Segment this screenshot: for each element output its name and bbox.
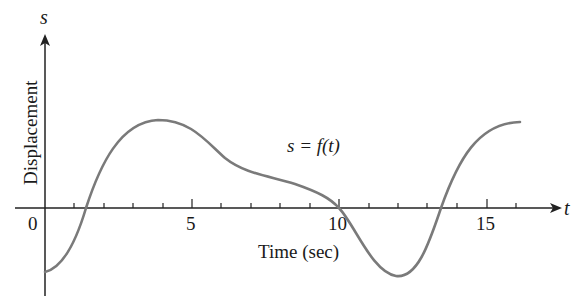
x-axis-symbol: t [564,197,570,220]
x-tick-label-5: 5 [186,213,196,235]
x-ticks [74,199,516,208]
curve-label: s = f(t) [287,135,340,157]
y-axis-label: Displacement [20,81,42,185]
x-tick-label-10: 10 [328,213,347,235]
x-axis-label: Time (sec) [258,241,339,263]
y-axis-symbol: s [40,6,48,29]
x-tick-label-0: 0 [28,213,38,235]
x-tick-label-15: 15 [476,213,495,235]
